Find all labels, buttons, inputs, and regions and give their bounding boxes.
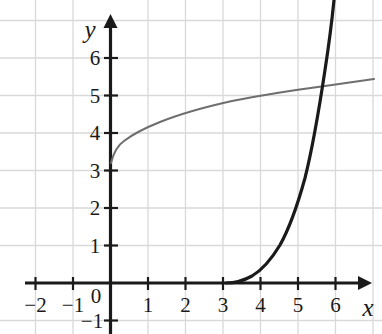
y-axis [104,14,118,334]
y-tick-label-1: 1 [90,234,101,258]
y-tick-label-5: 5 [90,84,101,108]
x-tick-label-4: 4 [255,293,266,317]
origin-label: 0 [91,284,102,308]
x-tick-label-2: 2 [180,293,191,317]
exponential-curve [226,0,334,283]
x-tick-label-3: 3 [218,293,229,317]
x-tick-label--2: −2 [24,293,46,317]
y-tick-label-2: 2 [90,196,101,220]
x-axis [25,276,372,290]
coordinate-plane-svg: y x 0 −2 −1 1 2 3 4 5 6 6 5 4 3 2 1 −1 [0,0,382,334]
logarithmic-curve [111,79,374,163]
x-tick-label-5: 5 [293,293,304,317]
y-axis-name: y [81,16,96,43]
y-tick-label-6: 6 [90,46,101,70]
y-tick-label-3: 3 [90,159,101,183]
x-tick-label-6: 6 [330,293,341,317]
graph-figure: y x 0 −2 −1 1 2 3 4 5 6 6 5 4 3 2 1 −1 [0,0,382,334]
x-tick-label-1: 1 [143,293,154,317]
x-axis-name: x [361,294,373,321]
y-tick-label-4: 4 [90,121,101,145]
y-tick-label--1: −1 [81,309,103,333]
